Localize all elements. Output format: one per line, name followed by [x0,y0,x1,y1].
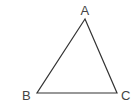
vertex-label-c: C [121,88,130,103]
triangle-diagram: A B C [0,0,139,108]
vertex-label-a: A [81,3,90,18]
vertex-label-b: B [22,88,31,103]
triangle-abc [37,19,117,93]
